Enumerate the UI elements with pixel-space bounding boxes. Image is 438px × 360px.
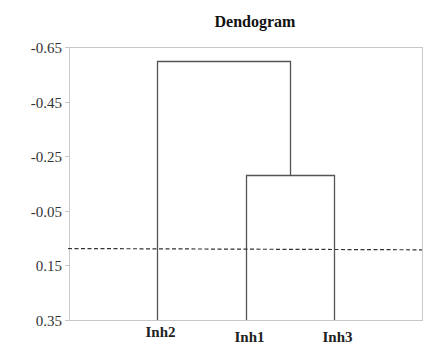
y-axis: -0.65-0.45-0.25-0.050.150.35 — [31, 40, 69, 329]
leaf-label-inh2: Inh2 — [145, 324, 175, 340]
cut-line — [68, 249, 422, 250]
dendrogram-link — [158, 62, 291, 321]
y-tick-label: -0.65 — [31, 40, 62, 56]
y-tick-label: -0.05 — [31, 204, 62, 220]
y-tick-label: 0.35 — [36, 313, 62, 329]
leaf-label-inh3: Inh3 — [322, 329, 352, 345]
dendrogram-link — [247, 176, 335, 321]
y-tick-label: -0.45 — [31, 95, 62, 111]
chart-title: Dendogram — [215, 13, 297, 31]
y-tick-label: 0.15 — [36, 258, 62, 274]
leaf-label-inh1: Inh1 — [234, 329, 264, 345]
x-axis-labels: Inh2Inh1Inh3 — [145, 324, 352, 345]
dendrogram-chart: Dendogram -0.65-0.45-0.25-0.050.150.35 I… — [0, 0, 438, 360]
cut-threshold-line — [68, 249, 422, 250]
dendrogram-links — [158, 62, 335, 321]
y-tick-label: -0.25 — [31, 149, 62, 165]
